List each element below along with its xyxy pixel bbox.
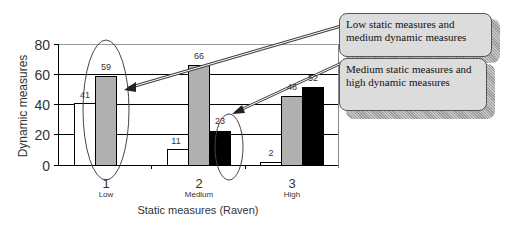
svg-text:11: 11 [171, 136, 180, 146]
bar-2-high [210, 132, 231, 166]
callout-text-1: Low static measures and medium dynamic m… [346, 18, 466, 43]
svg-text:41: 41 [80, 90, 90, 100]
svg-text:23: 23 [215, 116, 225, 126]
svg-text:Medium: Medium [185, 190, 214, 199]
svg-text:Low: Low [99, 190, 114, 199]
bar-3-low [261, 163, 282, 166]
svg-text:3: 3 [288, 176, 295, 191]
bar-3-high [303, 88, 324, 166]
svg-text:High: High [284, 190, 300, 199]
bars [75, 66, 324, 166]
callout-low-static: Low static measures and medium dynamic m… [339, 13, 492, 57]
svg-text:20: 20 [34, 127, 50, 143]
y-tick-labels: 80 60 40 20 0 [34, 37, 50, 174]
svg-text:0: 0 [42, 158, 50, 174]
callout-medium-static: Medium static measures and high dynamic … [339, 58, 487, 111]
svg-text:2: 2 [268, 148, 273, 158]
svg-text:80: 80 [34, 37, 50, 53]
y-axis-label: Dynamic measures [16, 55, 30, 158]
svg-text:66: 66 [194, 51, 204, 61]
svg-text:1: 1 [102, 176, 109, 191]
svg-text:40: 40 [34, 97, 50, 113]
svg-text:46: 46 [287, 82, 297, 92]
y-ticks [54, 45, 58, 135]
x-tick-labels: 1 2 3 Low Medium High [99, 176, 301, 199]
svg-text:2: 2 [195, 176, 202, 191]
svg-text:59: 59 [101, 62, 111, 72]
bar-1-medium [96, 77, 117, 166]
x-axis-label: Static measures (Raven) [137, 204, 258, 216]
svg-text:52: 52 [308, 73, 318, 83]
bar-3-medium [282, 97, 303, 166]
callout-text-2: Medium static measures and high dynamic … [346, 63, 472, 88]
svg-text:60: 60 [34, 67, 50, 83]
bar-2-low [168, 150, 189, 166]
bar-1-low [75, 104, 96, 166]
bar-2-medium [189, 66, 210, 166]
